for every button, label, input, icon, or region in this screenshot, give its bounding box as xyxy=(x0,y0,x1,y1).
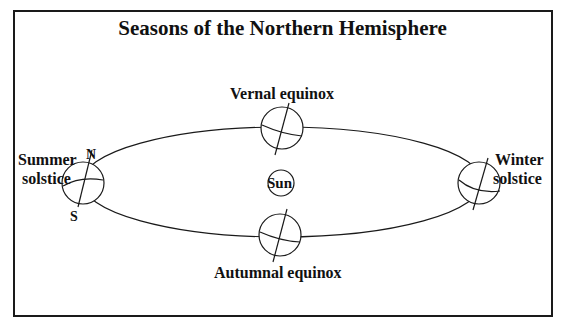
label-south: S xyxy=(70,207,78,226)
label-winter-line2: solstice xyxy=(493,169,542,188)
label-summer-line1: Summer xyxy=(18,150,77,169)
label-north: N xyxy=(86,145,96,164)
label-winter-line1: Winter xyxy=(495,150,544,169)
earth-autumnal-icon xyxy=(259,209,301,262)
label-summer-line2: solstice xyxy=(22,169,71,188)
earth-vernal-icon xyxy=(261,103,303,155)
label-vernal-equinox: Vernal equinox xyxy=(230,84,334,103)
label-sun: Sun xyxy=(267,174,292,193)
label-autumnal-equinox: Autumnal equinox xyxy=(214,263,342,282)
